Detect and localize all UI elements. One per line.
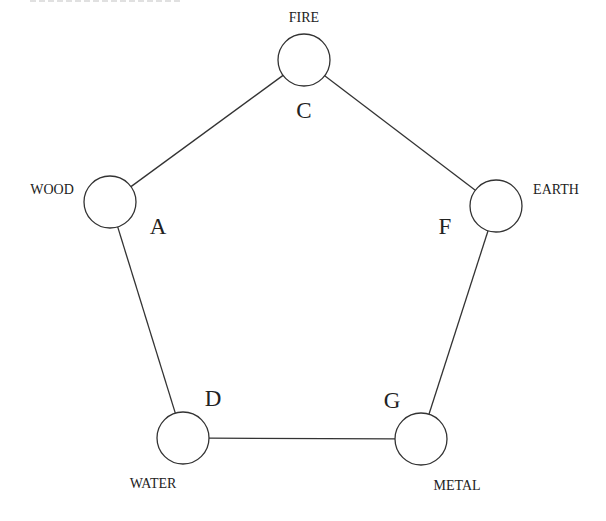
edge-earth-metal (429, 231, 488, 415)
node-earth: EARTHF (439, 180, 579, 239)
node-wood: WOODA (30, 176, 166, 239)
element-label-metal: METAL (433, 478, 480, 493)
edge-water-metal (209, 438, 395, 439)
five-elements-diagram: FIRECWOODAEARTHFWATERDMETALG (0, 0, 606, 521)
edges-group (118, 75, 488, 439)
node-fire: FIREC (278, 10, 330, 123)
letter-label-metal: G (384, 388, 401, 413)
element-label-fire: FIRE (289, 10, 319, 25)
node-circle-wood (84, 176, 136, 228)
letter-label-wood: A (150, 214, 167, 239)
letter-label-earth: F (439, 214, 452, 239)
letter-label-water: D (205, 386, 222, 411)
node-circle-earth (470, 180, 522, 232)
edge-fire-wood (131, 75, 283, 186)
element-label-wood: WOOD (30, 182, 74, 197)
edge-fire-earth (325, 76, 476, 191)
letter-label-fire: C (296, 98, 311, 123)
element-label-water: WATER (130, 476, 177, 491)
node-circle-metal (395, 413, 447, 465)
node-circle-water (157, 412, 209, 464)
element-label-earth: EARTH (533, 182, 579, 197)
edge-wood-water (118, 227, 176, 413)
nodes-group: FIRECWOODAEARTHFWATERDMETALG (30, 10, 579, 493)
node-circle-fire (278, 34, 330, 86)
node-water: WATERD (130, 386, 222, 491)
